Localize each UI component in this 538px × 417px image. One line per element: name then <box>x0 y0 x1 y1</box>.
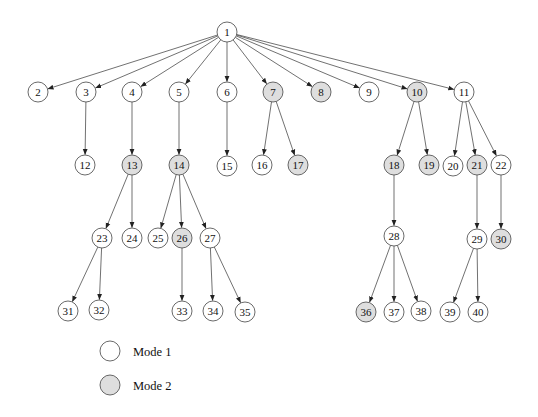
node-label: 15 <box>222 160 234 172</box>
legend: Mode 1Mode 2 <box>100 341 172 395</box>
node-label: 20 <box>448 160 460 172</box>
node-24: 24 <box>122 228 142 248</box>
node-label: 19 <box>424 159 436 171</box>
edge-29-39 <box>454 248 474 302</box>
node-16: 16 <box>252 155 272 175</box>
edge-11-22 <box>469 101 497 156</box>
node-label: 17 <box>293 159 305 171</box>
node-label: 38 <box>416 305 428 317</box>
node-label: 13 <box>127 159 139 171</box>
legend-swatch <box>100 375 120 395</box>
node-label: 35 <box>240 306 252 318</box>
node-label: 37 <box>389 306 401 318</box>
node-22: 22 <box>491 155 511 175</box>
node-label: 3 <box>83 86 89 98</box>
node-11: 11 <box>454 82 474 102</box>
legend-label: Mode 2 <box>133 379 172 393</box>
node-label: 12 <box>80 159 91 171</box>
node-39: 39 <box>440 302 460 322</box>
legend-label: Mode 1 <box>133 345 172 359</box>
node-23: 23 <box>92 228 112 248</box>
node-38: 38 <box>411 301 431 321</box>
node-label: 9 <box>366 86 372 98</box>
node-9: 9 <box>359 82 379 102</box>
node-label: 31 <box>63 305 74 317</box>
node-label: 10 <box>412 86 424 98</box>
node-20: 20 <box>443 156 463 176</box>
node-label: 27 <box>205 232 217 244</box>
node-label: 29 <box>472 233 484 245</box>
edge-14-27 <box>183 174 206 228</box>
edge-1-3 <box>96 36 218 88</box>
edge-1-8 <box>235 37 312 86</box>
node-label: 5 <box>176 86 182 98</box>
node-label: 7 <box>270 86 276 98</box>
node-label: 36 <box>361 306 373 318</box>
node-label: 33 <box>177 305 189 317</box>
node-35: 35 <box>235 302 255 322</box>
node-label: 34 <box>208 305 220 317</box>
node-label: 23 <box>97 232 109 244</box>
node-3: 3 <box>76 82 96 102</box>
node-31: 31 <box>58 301 78 321</box>
edge-11-21 <box>466 102 475 155</box>
node-5: 5 <box>169 82 189 102</box>
edge-10-19 <box>419 102 428 155</box>
node-label: 18 <box>389 159 401 171</box>
edge-13-23 <box>106 174 128 228</box>
node-label: 40 <box>473 306 485 318</box>
node-30: 30 <box>491 229 511 249</box>
node-label: 8 <box>318 86 324 98</box>
edge-29-40 <box>477 249 478 302</box>
node-label: 1 <box>224 26 230 38</box>
node-25: 25 <box>148 228 168 248</box>
edge-1-5 <box>186 40 221 84</box>
edge-3-12 <box>85 102 86 155</box>
node-40: 40 <box>468 302 488 322</box>
node-21: 21 <box>467 155 487 175</box>
node-label: 26 <box>177 232 189 244</box>
node-label: 32 <box>94 304 105 316</box>
node-34: 34 <box>203 301 223 321</box>
node-18: 18 <box>384 155 404 175</box>
node-10: 10 <box>407 82 427 102</box>
node-label: 30 <box>496 233 508 245</box>
node-1: 1 <box>217 22 237 42</box>
node-label: 2 <box>35 86 41 98</box>
node-label: 11 <box>459 86 470 98</box>
node-27: 27 <box>200 228 220 248</box>
node-2: 2 <box>28 82 48 102</box>
edge-23-32 <box>99 248 101 300</box>
node-37: 37 <box>384 302 404 322</box>
node-label: 25 <box>153 232 165 244</box>
edge-23-31 <box>72 247 97 301</box>
node-label: 39 <box>445 306 457 318</box>
node-label: 6 <box>224 86 230 98</box>
node-26: 26 <box>172 228 192 248</box>
node-label: 22 <box>496 159 507 171</box>
edge-14-26 <box>179 175 181 228</box>
edge-1-4 <box>141 37 219 86</box>
node-6: 6 <box>217 82 237 102</box>
node-label: 28 <box>389 230 401 242</box>
edge-1-9 <box>236 36 359 88</box>
node-label: 21 <box>472 159 483 171</box>
node-8: 8 <box>311 82 331 102</box>
node-15: 15 <box>217 156 237 176</box>
edge-1-11 <box>237 35 454 90</box>
edge-27-34 <box>210 248 212 301</box>
edge-11-20 <box>455 102 463 156</box>
node-7: 7 <box>263 82 283 102</box>
node-29: 29 <box>467 229 487 249</box>
node-14: 14 <box>169 155 189 175</box>
edge-7-17 <box>276 102 294 156</box>
edge-10-18 <box>397 102 414 156</box>
node-17: 17 <box>288 155 308 175</box>
node-label: 14 <box>174 159 186 171</box>
node-19: 19 <box>419 155 439 175</box>
edge-1-2 <box>48 35 218 89</box>
legend-item-mode-2: Mode 2 <box>100 375 172 395</box>
node-label: 24 <box>127 232 139 244</box>
node-12: 12 <box>75 155 95 175</box>
node-33: 33 <box>172 301 192 321</box>
